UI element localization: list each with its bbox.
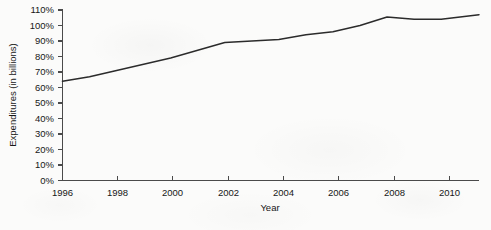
x-tick-label: 2010	[439, 187, 460, 198]
y-tick-label: 20%	[35, 144, 55, 155]
y-tick-label: 50%	[35, 97, 55, 108]
y-tick-label: 40%	[35, 113, 55, 124]
y-tick-label: 10%	[35, 159, 55, 170]
y-axis-tick-labels: 0% 10% 20% 30% 40% 50% 60% 70% 80% 90% 1…	[30, 4, 55, 186]
x-axis-ticks	[63, 176, 450, 181]
x-tick-label: 1998	[107, 187, 128, 198]
x-tick-label: 2000	[162, 187, 183, 198]
y-axis-ticks	[58, 10, 63, 181]
y-tick-label: 60%	[35, 82, 55, 93]
y-tick-label: 70%	[35, 66, 55, 77]
x-axis-title: Year	[260, 202, 279, 213]
y-tick-label: 30%	[35, 128, 55, 139]
y-tick-label: 90%	[35, 35, 55, 46]
y-axis-title: Expenditures (in billions)	[7, 43, 18, 147]
x-axis-tick-labels: 1996 1998 2000 2002 2004 2006 2008 2010	[52, 187, 460, 198]
y-tick-label: 0%	[40, 175, 54, 186]
data-series-line	[63, 15, 480, 82]
y-tick-label: 80%	[35, 51, 55, 62]
chart-plot-area: 0% 10% 20% 30% 40% 50% 60% 70% 80% 90% 1…	[0, 0, 491, 230]
x-tick-label: 2002	[218, 187, 239, 198]
y-tick-label: 110%	[30, 4, 54, 15]
x-tick-label: 2004	[273, 187, 294, 198]
x-tick-label: 2008	[384, 187, 405, 198]
x-tick-label: 1996	[52, 187, 73, 198]
line-chart: 0% 10% 20% 30% 40% 50% 60% 70% 80% 90% 1…	[0, 0, 491, 230]
y-tick-label: 100%	[30, 20, 55, 31]
x-tick-label: 2006	[328, 187, 349, 198]
